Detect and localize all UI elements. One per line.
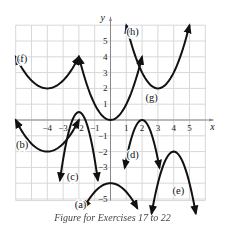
curve-label-a: (a) xyxy=(75,199,87,211)
curve-label-d: (d) xyxy=(126,149,139,161)
x-tick-label: −4 xyxy=(43,123,53,133)
y-tick-label: 2 xyxy=(103,83,108,93)
x-tick-label: 3 xyxy=(156,123,161,133)
x-tick-label: 4 xyxy=(171,123,176,133)
x-tick-label: 5 xyxy=(187,123,192,133)
y-tick-label: 3 xyxy=(103,68,108,78)
y-tick-label: 1 xyxy=(103,99,108,109)
curve-label-c: (c) xyxy=(67,171,79,183)
y-tick-label: −1 xyxy=(98,131,108,141)
curve-label-f: (f) xyxy=(17,53,28,65)
curve-label-h: (h) xyxy=(126,26,139,38)
x-tick-label: −3 xyxy=(58,123,68,133)
x-tick-label: 1 xyxy=(124,123,129,133)
curve-label-b: (b) xyxy=(16,139,29,151)
y-tick-label: −3 xyxy=(98,162,108,172)
x-tick-label: 2 xyxy=(140,123,145,133)
y-axis-label: y xyxy=(100,12,106,23)
y-tick-label: 5 xyxy=(103,36,108,46)
x-axis-label: x xyxy=(209,121,215,132)
figure-caption: Figure for Exercises 17 to 22 xyxy=(0,212,225,223)
y-tick-label: 4 xyxy=(103,52,108,62)
curve-label-e: (e) xyxy=(173,185,185,197)
parabola-graph: xy −4−3−2−11234554321−1−2−3−5 (a)(b)(c)(… xyxy=(0,0,225,229)
y-tick-label: −2 xyxy=(98,147,108,157)
y-tick-label: −5 xyxy=(98,194,108,204)
curve-label-g: (g) xyxy=(145,92,158,104)
